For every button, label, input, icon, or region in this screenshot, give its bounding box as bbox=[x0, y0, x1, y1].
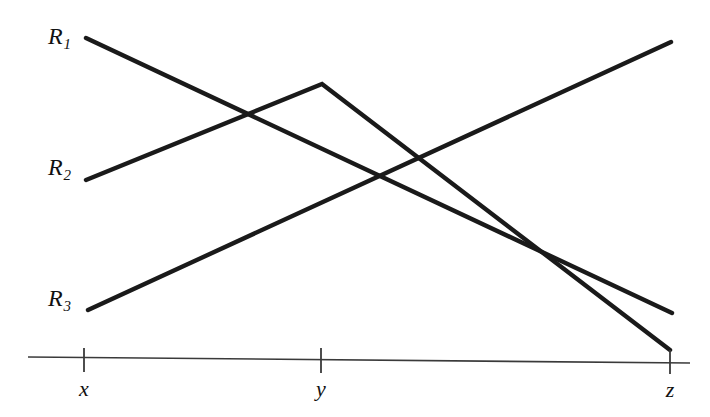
series-label-r1: R1 bbox=[48, 24, 71, 48]
series-label-r3: R3 bbox=[48, 286, 71, 310]
axis-tick-label-z: z bbox=[666, 379, 675, 401]
series-label-r2: R2 bbox=[48, 155, 71, 179]
axis-group bbox=[28, 348, 690, 374]
horizontal-axis-line bbox=[28, 357, 690, 363]
series-label-r1-base: R bbox=[48, 23, 63, 49]
preference-curves-figure: R1 R2 R3 x y z bbox=[0, 0, 710, 417]
axis-tick-label-y: y bbox=[316, 378, 326, 400]
plot-canvas bbox=[0, 0, 710, 417]
series-label-r2-base: R bbox=[48, 154, 63, 180]
series-label-r2-subscript: 2 bbox=[63, 167, 71, 183]
curve-r2 bbox=[86, 84, 670, 350]
series-label-r1-subscript: 1 bbox=[63, 36, 71, 52]
curves-group bbox=[86, 38, 672, 350]
series-label-r3-subscript: 3 bbox=[63, 298, 71, 314]
series-label-r3-base: R bbox=[48, 285, 63, 311]
axis-tick-label-x: x bbox=[79, 378, 89, 400]
